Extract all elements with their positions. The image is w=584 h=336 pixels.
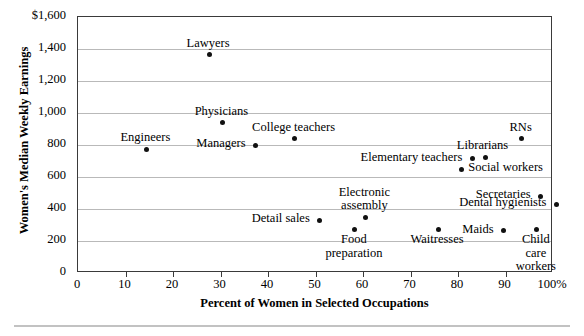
y-axis-tick-label: 1,000 — [22, 105, 66, 117]
x-axis-tick-label: 0 — [74, 278, 80, 291]
data-point-label: Dental hygienists — [459, 196, 546, 210]
data-point — [363, 215, 368, 220]
data-point-label: Lawyers — [187, 37, 230, 51]
data-point — [554, 202, 559, 207]
data-point-label: Child care workers — [516, 233, 556, 274]
x-axis-tick-label: 40 — [261, 278, 274, 291]
data-point — [292, 136, 297, 141]
scatter-chart: Women's Median Weekly Earnings 020040060… — [0, 0, 584, 336]
x-axis-tick-label: 20 — [166, 278, 179, 291]
data-point — [144, 147, 149, 152]
y-axis-tick-label: 400 — [22, 201, 66, 213]
footer-divider — [14, 325, 570, 327]
data-point-label: Librarians — [457, 139, 508, 153]
data-point-label: Maids — [462, 223, 493, 237]
y-axis-tick-label: 0 — [22, 265, 66, 277]
data-point — [317, 218, 322, 223]
data-point-label: Food preparation — [325, 233, 382, 260]
x-axis-tick-label: 30 — [213, 278, 226, 291]
y-axis-tick-label: 1,400 — [22, 41, 66, 53]
gridline — [78, 49, 551, 50]
gridline — [78, 177, 551, 178]
data-point — [459, 167, 464, 172]
data-point-label: Elementary teachers — [361, 151, 463, 165]
x-axis-tick-label: 50 — [308, 278, 321, 291]
data-point-label: Waitresses — [410, 233, 463, 247]
x-axis-tick-label: 60 — [356, 278, 369, 291]
y-axis-tick-label: 1,200 — [22, 73, 66, 85]
x-axis-tick-label: 100% — [537, 278, 566, 291]
data-point — [207, 52, 212, 57]
y-axis-tick-label: $1,600 — [22, 9, 66, 21]
data-point-label: Managers — [196, 137, 245, 151]
data-point-label: Physicians — [195, 105, 248, 119]
data-point — [253, 143, 258, 148]
data-point-label: Detail sales — [252, 212, 310, 226]
data-point — [483, 155, 488, 160]
x-axis-tick-label: 10 — [118, 278, 131, 291]
data-point-label: RNs — [510, 121, 532, 135]
data-point-label: Social workers — [468, 161, 543, 175]
data-point — [352, 227, 357, 232]
data-point-label: Electronic assembly — [339, 186, 390, 213]
x-axis-tick-label: 70 — [403, 278, 416, 291]
x-axis-tick-label: 80 — [451, 278, 464, 291]
x-axis-tick-label: 90 — [498, 278, 511, 291]
y-axis-tick-label: 800 — [22, 137, 66, 149]
y-axis-tick-label: 600 — [22, 169, 66, 181]
data-point — [519, 136, 524, 141]
data-point — [534, 227, 539, 232]
data-point — [436, 227, 441, 232]
y-axis-tick-label: 200 — [22, 233, 66, 245]
data-point-label: College teachers — [252, 121, 335, 135]
x-axis-title: Percent of Women in Selected Occupations — [77, 296, 552, 311]
data-point — [220, 120, 225, 125]
gridline — [78, 113, 551, 114]
gridline — [78, 241, 551, 242]
data-point — [501, 228, 506, 233]
data-point-label: Engineers — [120, 131, 170, 145]
gridline — [78, 81, 551, 82]
